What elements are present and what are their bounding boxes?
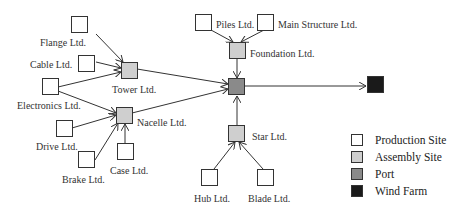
edge-arrow bbox=[95, 123, 118, 160]
legend-label-production: Production Site bbox=[375, 134, 446, 147]
legend-swatch-windfarm bbox=[351, 185, 363, 197]
node-foundation bbox=[229, 42, 246, 59]
node-label-nacelle: Nacelle Ltd. bbox=[137, 117, 186, 128]
node-blade bbox=[257, 169, 274, 186]
node-hub bbox=[201, 169, 218, 186]
legend-label-assembly: Assembly Site bbox=[375, 151, 442, 164]
legend-swatch-port bbox=[351, 168, 363, 180]
edge-arrow bbox=[137, 69, 228, 84]
edge-arrow bbox=[96, 34, 123, 62]
node-windfarm bbox=[367, 76, 384, 93]
node-electronics bbox=[42, 78, 59, 95]
node-brake bbox=[78, 151, 95, 168]
edge-arrow bbox=[214, 142, 235, 169]
node-label-star: Star Ltd. bbox=[252, 131, 287, 142]
node-label-hub: Hub Ltd. bbox=[194, 193, 230, 204]
node-label-brake: Brake Ltd. bbox=[62, 174, 105, 185]
legend-swatch-assembly bbox=[351, 151, 363, 163]
node-cable bbox=[78, 55, 95, 72]
node-mainstructure bbox=[257, 14, 274, 31]
node-star bbox=[228, 125, 245, 142]
edge-arrow bbox=[96, 62, 121, 68]
edge-arrow bbox=[239, 142, 263, 169]
node-drive bbox=[56, 120, 73, 137]
node-label-piles: Piles Ltd. bbox=[216, 19, 254, 30]
legend-label-port: Port bbox=[375, 168, 394, 181]
edge-arrow bbox=[241, 30, 264, 42]
node-port bbox=[228, 78, 245, 95]
node-nacelle bbox=[116, 107, 133, 124]
node-piles bbox=[195, 14, 212, 31]
node-label-blade: Blade Ltd. bbox=[248, 193, 290, 204]
edge-arrow bbox=[211, 30, 233, 42]
legend-swatch-production bbox=[351, 134, 363, 146]
node-case bbox=[117, 143, 134, 160]
node-flange bbox=[71, 16, 88, 33]
node-label-mainstructure: Main Structure Ltd. bbox=[278, 19, 357, 30]
node-tower bbox=[121, 62, 138, 79]
supply-chain-diagram: Flange Ltd.Cable Ltd.Electronics Ltd.Dri… bbox=[0, 0, 464, 215]
node-label-electronics: Electronics Ltd. bbox=[17, 100, 81, 111]
node-label-flange: Flange Ltd. bbox=[40, 37, 86, 48]
legend-label-windfarm: Wind Farm bbox=[375, 185, 427, 198]
node-label-cable: Cable Ltd. bbox=[30, 59, 72, 70]
node-label-tower: Tower Ltd. bbox=[112, 84, 156, 95]
node-label-foundation: Foundation Ltd. bbox=[250, 48, 314, 59]
node-label-case: Case Ltd. bbox=[110, 165, 148, 176]
edge-arrow bbox=[72, 115, 116, 128]
node-label-drive: Drive Ltd. bbox=[36, 141, 78, 152]
